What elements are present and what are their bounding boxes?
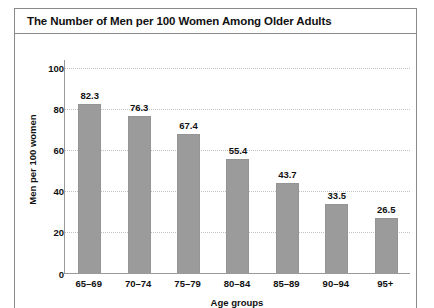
bar-value-label: 55.4 [229, 145, 248, 156]
y-axis-tick-labels: 100 80 60 40 20 0 [15, 34, 64, 308]
bar-rect[interactable] [276, 183, 299, 273]
y-tick-label-0: 0 [30, 269, 64, 280]
x-tick-label: 90–94 [311, 278, 360, 289]
y-tick-label-40: 40 [30, 186, 64, 197]
y-tick-label-80: 80 [30, 104, 64, 115]
bar-item[interactable]: 82.3 [65, 67, 114, 273]
bar-rect[interactable] [375, 218, 398, 273]
x-tick-label: 80–84 [212, 278, 261, 289]
bar-rect[interactable] [325, 204, 348, 273]
bar-rect[interactable] [78, 104, 101, 274]
bar-item[interactable]: 67.4 [164, 67, 213, 273]
plot-wrapper: Men per 100 women 100 80 60 40 20 0 82.3 [15, 34, 416, 308]
plot-area: 82.3 76.3 67.4 55.4 43.7 [64, 68, 396, 274]
bar-value-label: 43.7 [278, 169, 297, 180]
x-axis-line [64, 273, 410, 274]
x-tick-label: 75–79 [163, 278, 212, 289]
chart-title-bar: The Number of Men per 100 Women Among Ol… [15, 9, 416, 34]
chart-panel: The Number of Men per 100 Women Among Ol… [14, 8, 417, 308]
x-tick-label: 70–74 [113, 278, 162, 289]
bar-rect[interactable] [177, 134, 200, 273]
x-axis-tick-labels: 65–69 70–74 75–79 80–84 85–89 90–94 95+ [64, 278, 410, 289]
y-tick-label-20: 20 [30, 227, 64, 238]
bar-value-label: 76.3 [130, 102, 149, 113]
bar-item[interactable]: 26.5 [362, 67, 411, 273]
page-title: The Number of Men per 100 Women Among Ol… [15, 15, 331, 27]
bar-rect[interactable] [226, 159, 249, 273]
x-tick-label: 85–89 [262, 278, 311, 289]
bar-value-label: 26.5 [377, 204, 396, 215]
bar-item[interactable]: 33.5 [312, 67, 361, 273]
x-tick-label: 95+ [361, 278, 410, 289]
bar-item[interactable]: 55.4 [213, 67, 262, 273]
x-axis-title: Age groups [64, 297, 410, 308]
bar-value-label: 82.3 [80, 90, 99, 101]
bar-rect[interactable] [128, 116, 151, 273]
y-tick-label-60: 60 [30, 145, 64, 156]
bar-value-label: 67.4 [179, 120, 198, 131]
bar-item[interactable]: 76.3 [114, 67, 163, 273]
bar-item[interactable]: 43.7 [263, 67, 312, 273]
x-tick-label: 65–69 [64, 278, 113, 289]
y-tick-label-100: 100 [30, 63, 64, 74]
bar-series: 82.3 76.3 67.4 55.4 43.7 [65, 67, 411, 273]
bar-value-label: 33.5 [328, 190, 347, 201]
